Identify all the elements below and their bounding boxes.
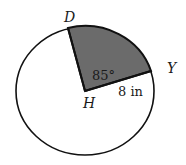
- point-label-d: D: [63, 9, 75, 25]
- center-label-h: H: [82, 95, 96, 111]
- radius-length-label: 8 in: [118, 84, 144, 99]
- point-label-y: Y: [167, 60, 178, 76]
- angle-label: 85°: [92, 68, 115, 83]
- sector-diagram: D Y H 85° 8 in: [0, 0, 186, 165]
